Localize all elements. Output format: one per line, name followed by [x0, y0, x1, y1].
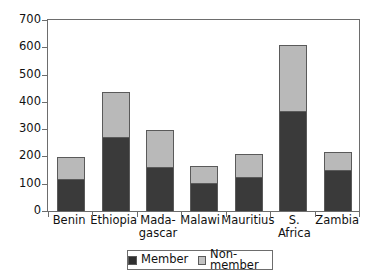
y-tick-mark: [42, 156, 47, 157]
y-tick-label: 400: [0, 96, 41, 108]
x-tick-label: Benin: [48, 214, 90, 227]
x-tick-label: S. Africa: [273, 214, 315, 240]
bar-stack[interactable]: [279, 45, 307, 211]
legend-entry[interactable]: Member: [128, 254, 188, 266]
x-tick-mark: [226, 212, 227, 217]
x-tick-mark: [92, 212, 93, 217]
y-tick-label: 100: [0, 178, 41, 190]
bar-segment-non-member[interactable]: [147, 131, 173, 169]
bar-stack[interactable]: [190, 166, 218, 211]
bar-segment-non-member[interactable]: [191, 167, 217, 184]
y-tick-label: 500: [0, 69, 41, 81]
bar-stack[interactable]: [235, 154, 263, 211]
y-tick-label: 600: [0, 41, 41, 53]
x-tick-label: Ethiopia: [90, 214, 137, 227]
x-tick-mark: [270, 212, 271, 217]
x-tick-mark: [181, 212, 182, 217]
chart-legend: MemberNon-member: [127, 250, 273, 270]
legend-label: Non-member: [210, 249, 272, 272]
bar-segment-member[interactable]: [191, 184, 217, 211]
bar-group[interactable]: [279, 20, 305, 211]
legend-label: Member: [141, 254, 188, 266]
x-tick-mark: [315, 212, 316, 217]
x-tick-mark: [137, 212, 138, 217]
x-tick-label-line1: Ethiopia: [90, 213, 137, 227]
y-tick-mark: [42, 102, 47, 103]
y-tick-label: 200: [0, 150, 41, 162]
bar-segment-member[interactable]: [147, 168, 173, 211]
bar-group[interactable]: [235, 20, 261, 211]
x-tick-label-line1: S. Africa: [278, 213, 311, 240]
x-tick-label-line1: Zambia: [315, 213, 359, 227]
x-tick-label: Zambia: [315, 214, 359, 227]
x-tick-mark: [359, 212, 360, 217]
y-axis: 7006005004003002001000: [0, 0, 41, 279]
bar-segment-non-member[interactable]: [236, 155, 262, 179]
bars-row: [48, 20, 359, 211]
y-tick-mark: [42, 75, 47, 76]
y-tick-mark: [42, 184, 47, 185]
bar-segment-member[interactable]: [325, 171, 351, 211]
bar-group[interactable]: [324, 20, 350, 211]
y-tick-label: 300: [0, 123, 41, 135]
bar-stack[interactable]: [146, 130, 174, 211]
stacked-bar-chart: 7006005004003002001000 BeninEthiopiaMada…: [0, 0, 377, 279]
bar-segment-member[interactable]: [103, 138, 129, 211]
x-tick-label-line1: Malawi: [180, 213, 220, 227]
y-tick-mark: [42, 211, 47, 212]
y-tick-mark: [42, 129, 47, 130]
x-tick-label-line1: Mada-: [140, 213, 175, 227]
plot-area: [48, 20, 359, 211]
y-tick-mark: [42, 20, 47, 21]
x-tick-label-line1: Benin: [53, 213, 86, 227]
bar-segment-non-member[interactable]: [325, 153, 351, 172]
x-tick-mark: [48, 212, 49, 217]
bar-segment-member[interactable]: [236, 178, 262, 211]
x-tick-label-line1: Mauritius: [221, 213, 274, 227]
x-tick-label: Malawi: [179, 214, 221, 227]
y-tick-mark: [42, 47, 47, 48]
bar-segment-non-member[interactable]: [58, 158, 84, 181]
bar-stack[interactable]: [57, 157, 85, 211]
bar-group[interactable]: [102, 20, 128, 211]
bar-stack[interactable]: [324, 152, 352, 211]
x-tick-label-line2: gascar: [137, 227, 179, 240]
bar-group[interactable]: [190, 20, 216, 211]
legend-entry[interactable]: Non-member: [198, 249, 272, 272]
bar-segment-non-member[interactable]: [280, 46, 306, 112]
bar-group[interactable]: [57, 20, 83, 211]
legend-swatch-member: [128, 256, 137, 265]
x-axis: BeninEthiopiaMada-gascarMalawiMauritiusS…: [48, 214, 359, 250]
legend-swatch-nonmember: [198, 256, 206, 265]
bar-segment-non-member[interactable]: [103, 93, 129, 138]
x-tick-label: Mada-gascar: [137, 214, 179, 240]
bar-group[interactable]: [146, 20, 172, 211]
bar-segment-member[interactable]: [280, 112, 306, 211]
bar-stack[interactable]: [102, 92, 130, 211]
y-tick-label: 0: [0, 205, 41, 217]
y-tick-label: 700: [0, 14, 41, 26]
x-tick-label: Mauritius: [221, 214, 273, 227]
bar-segment-member[interactable]: [58, 180, 84, 211]
